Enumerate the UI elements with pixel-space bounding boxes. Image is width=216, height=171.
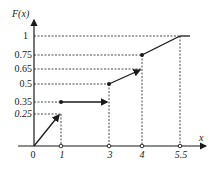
y-axis-label: F(x) [11, 8, 30, 20]
y-tick-05: 0.5 [20, 78, 33, 89]
y-tick-075: 0.75 [15, 49, 33, 60]
closed-points [59, 53, 144, 104]
x-axis-label: x [198, 132, 204, 143]
y-tick-035: 0.35 [15, 96, 33, 107]
x-tick-0: 0 [31, 149, 36, 160]
y-tick-025: 0.25 [15, 108, 33, 119]
cdf-segments [34, 36, 190, 146]
cdf-chart: F(x) x 1 0.75 0.65 0.5 0.35 0.25 0 1 3 4… [0, 0, 216, 171]
guide-lines [34, 36, 180, 146]
x-tick-4: 4 [140, 149, 145, 160]
x-tick-1: 1 [60, 149, 65, 160]
y-tick-1: 1 [23, 30, 28, 41]
x-tick-5-5: 5.5 [175, 149, 188, 160]
y-tick-065: 0.65 [15, 63, 33, 74]
x-tick-3: 3 [107, 149, 113, 160]
